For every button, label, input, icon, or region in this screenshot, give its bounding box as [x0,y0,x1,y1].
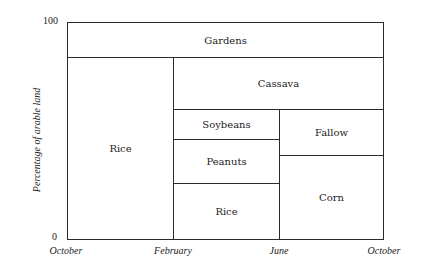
land-use-diagram: Gardens Rice Cassava Soybeans Peanuts Ri… [67,22,384,240]
block-corn: Corn [279,155,384,240]
block-label: Soybeans [202,119,250,130]
block-label: Cassava [258,78,299,89]
block-rice-feb-jun: Rice [173,183,280,240]
block-cassava: Cassava [173,57,384,110]
block-fallow: Fallow [279,109,384,156]
block-soybeans: Soybeans [173,109,280,140]
y-tick-0: 0 [52,231,57,242]
y-axis-label: Percentage of arable land [31,88,42,192]
block-label: Rice [215,206,237,217]
block-gardens: Gardens [67,22,384,58]
x-tick-october-end: October [368,245,401,256]
block-label: Fallow [315,127,348,138]
block-label: Peanuts [206,156,246,167]
x-tick-february: February [154,245,192,256]
x-tick-october-start: October [50,245,83,256]
block-peanuts: Peanuts [173,139,280,184]
block-label: Gardens [204,35,247,46]
block-label: Corn [319,192,344,203]
block-rice-oct-feb: Rice [67,57,174,240]
block-label: Rice [109,143,131,154]
y-tick-100: 100 [43,15,58,26]
x-tick-june: June [270,245,289,256]
